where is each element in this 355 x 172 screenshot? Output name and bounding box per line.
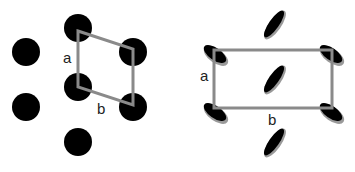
molecule-circle bbox=[64, 128, 92, 156]
right-lattice-panel: a b bbox=[200, 8, 347, 161]
cell-label-b: b bbox=[97, 100, 105, 117]
molecule-circle bbox=[12, 93, 40, 121]
left-lattice-panel: a b bbox=[12, 14, 147, 156]
molecule-ellipse-center bbox=[260, 63, 289, 98]
cell-label-a: a bbox=[63, 49, 72, 66]
molecule-ellipse-center bbox=[260, 8, 289, 43]
molecule-ellipse-corner bbox=[201, 100, 232, 128]
molecule-ellipse-center bbox=[260, 126, 289, 161]
cell-label-b: b bbox=[268, 111, 276, 128]
molecule-ellipse-corner bbox=[201, 42, 232, 70]
cell-label-a: a bbox=[200, 67, 209, 84]
lattice-diagram: a b bbox=[0, 0, 355, 172]
molecule-circle bbox=[12, 38, 40, 66]
